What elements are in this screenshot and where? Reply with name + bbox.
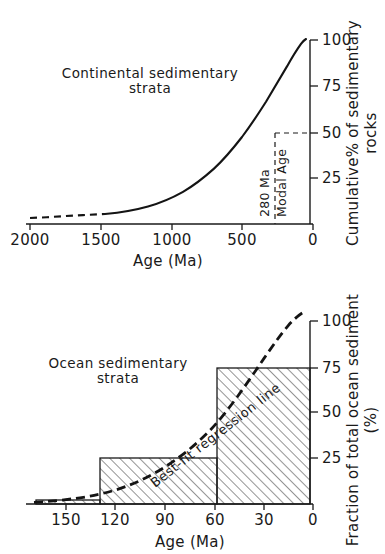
bottom-panel-title-line2: strata [97,370,139,386]
figure-root: 2000 1500 1000 500 0 100 75 50 25 Age (M… [0,0,385,554]
top-xtick-label-500: 500 [227,231,257,249]
top-panel-title-line1: Continental sedimentary [62,65,238,81]
bottom-xtick-label-60: 60 [205,511,225,529]
chart-ocean-sedimentary-strata: 150 120 90 60 30 0 100 75 50 25 Age (Ma)… [0,270,385,554]
bottom-xtick-label-90: 90 [155,511,175,529]
top-xtick-label-1500: 1500 [81,231,120,249]
bottom-xtick-label-30: 30 [254,511,274,529]
top-x-axis-title: Age (Ma) [133,252,203,270]
top-panel-title-line2: strata [129,80,171,96]
top-y-axis-title-line1: Cumulative% of sedimentary [344,20,362,246]
top-y-axis-title-line2: rocks [362,112,380,153]
bottom-xtick-label-0: 0 [308,511,318,529]
bottom-chart-svg: 150 120 90 60 30 0 100 75 50 25 Age (Ma)… [0,270,385,554]
bottom-ytick-label-75: 75 [322,359,342,377]
chart-continental-sedimentary-strata: 2000 1500 1000 500 0 100 75 50 25 Age (M… [0,0,385,270]
bottom-x-axis-title: Age (Ma) [155,533,225,551]
cumulative-curve-dashed-segment [30,214,105,218]
bottom-xtick-label-120: 120 [100,511,130,529]
top-ytick-label-25: 25 [322,169,342,187]
bottom-ytick-label-25: 25 [322,449,342,467]
top-xtick-label-2000: 2000 [10,231,49,249]
modal-age-value-label: 280 Ma [257,169,272,217]
top-xtick-label-0: 0 [308,231,318,249]
top-chart-svg: 2000 1500 1000 500 0 100 75 50 25 Age (M… [0,0,385,270]
top-ytick-label-50: 50 [322,124,342,142]
modal-age-name-label: Modal Age [274,149,289,217]
bottom-y-axis-title-line2: (%) [362,407,380,434]
bottom-y-axis-title-line1: Fraction of total ocean sediment [344,294,362,547]
bottom-xtick-label-150: 150 [51,511,81,529]
bottom-panel-title-line1: Ocean sedimentary [48,355,187,371]
top-xtick-label-1000: 1000 [152,231,191,249]
top-ytick-label-75: 75 [322,77,342,95]
bottom-ytick-label-50: 50 [322,403,342,421]
